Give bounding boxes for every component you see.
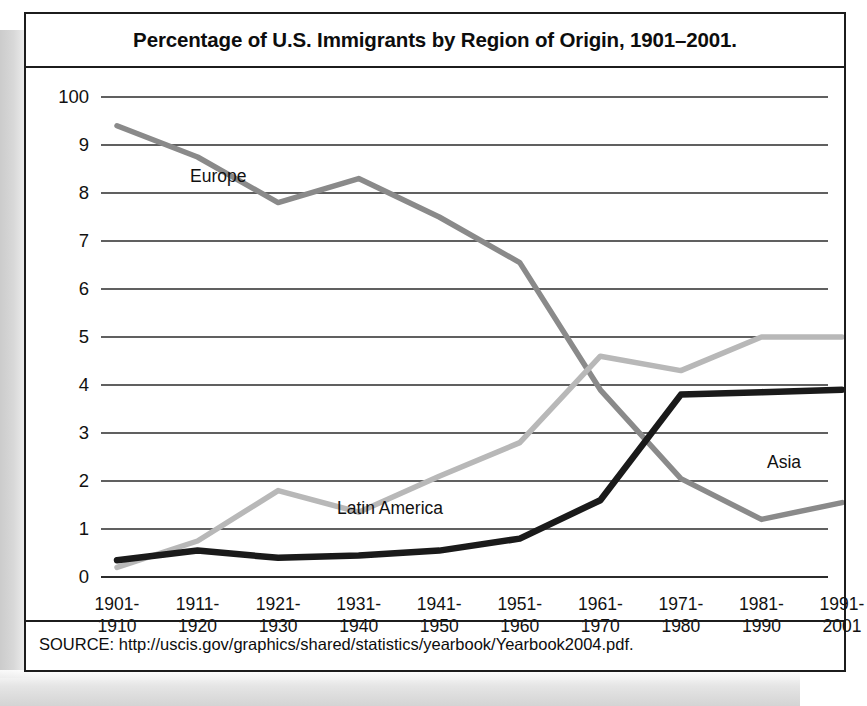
x-tick-label-line: 1991-	[820, 593, 865, 615]
y-tick-label: 8	[45, 182, 89, 204]
x-tick-label: 1971-1980	[658, 593, 703, 637]
x-tick-label-line: 1931-	[336, 593, 381, 615]
x-tick-label-line: 1910	[95, 615, 140, 637]
x-tick-label: 1991-2001	[820, 593, 865, 637]
series-label-asia: Asia	[767, 452, 801, 473]
x-tick-label: 1911-1920	[176, 593, 219, 637]
x-tick-label-line: 1970	[578, 615, 623, 637]
x-tick-label-line: 1960	[497, 615, 542, 637]
x-tick-label: 1941-1950	[417, 593, 462, 637]
x-tick-label: 1981-1990	[739, 593, 784, 637]
y-tick-label: 6	[45, 278, 89, 300]
chart-title: Percentage of U.S. Immigrants by Region …	[26, 28, 844, 52]
x-tick-label-line: 1950	[417, 615, 462, 637]
x-tick-label-line: 1920	[176, 615, 219, 637]
x-tick-label: 1921-1930	[256, 593, 301, 637]
y-tick-label: 3	[45, 422, 89, 444]
x-tick-label-line: 1901-	[95, 593, 140, 615]
y-tick-label: 5	[45, 326, 89, 348]
x-tick-label-line: 1911-	[176, 593, 219, 615]
x-tick-label-line: 1990	[739, 615, 784, 637]
series-label-europe: Europe	[190, 166, 246, 187]
chart-figure: Percentage of U.S. Immigrants by Region …	[24, 12, 846, 672]
x-tick-label-line: 1921-	[256, 593, 301, 615]
x-tick-label: 1961-1970	[578, 593, 623, 637]
x-tick-label-line: 1930	[256, 615, 301, 637]
y-tick-label: 100	[45, 86, 89, 108]
source-caption: SOURCE: http://uscis.gov/graphics/shared…	[39, 635, 634, 654]
x-tick-label: 1951-1960	[497, 593, 542, 637]
x-tick-label-line: 1980	[658, 615, 703, 637]
y-tick-label: 9	[45, 134, 89, 156]
series-line-asia	[117, 390, 842, 560]
y-tick-label: 1	[45, 518, 89, 540]
page-gutter-shadow-bottom	[0, 670, 800, 706]
y-tick-label: 2	[45, 470, 89, 492]
series-line-latin-america	[117, 337, 842, 567]
y-tick-label: 0	[45, 566, 89, 588]
x-tick-label-line: 1971-	[658, 593, 703, 615]
line-chart-svg	[26, 66, 844, 619]
x-tick-label-line: 1951-	[497, 593, 542, 615]
x-tick-label-line: 1941-	[417, 593, 462, 615]
source-divider	[26, 620, 844, 622]
scanned-page: Percentage of U.S. Immigrants by Region …	[0, 0, 867, 706]
series-lines-group	[117, 126, 842, 568]
y-tick-label: 4	[45, 374, 89, 396]
plot-area: Europe Latin America Asia 1009876543210 …	[26, 66, 844, 619]
y-tick-label: 7	[45, 230, 89, 252]
x-tick-label: 1931-1940	[336, 593, 381, 637]
x-tick-label-line: 2001	[820, 615, 865, 637]
x-tick-label: 1901-1910	[95, 593, 140, 637]
x-tick-label-line: 1961-	[578, 593, 623, 615]
series-label-latin-america: Latin America	[337, 498, 443, 519]
x-tick-label-line: 1940	[336, 615, 381, 637]
x-tick-label-line: 1981-	[739, 593, 784, 615]
